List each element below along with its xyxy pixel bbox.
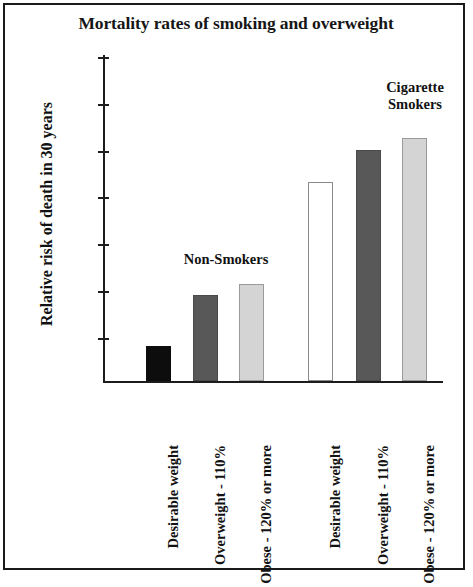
annotation-cigarette-smokers: Cigarette Smokers bbox=[355, 79, 473, 112]
bar-obese-smoker[interactable] bbox=[402, 138, 427, 381]
y-tick-mark bbox=[98, 244, 109, 246]
y-tick-mark bbox=[98, 151, 109, 153]
y-tick-mark bbox=[98, 104, 109, 106]
page-title: Mortality rates of smoking and overweigh… bbox=[5, 13, 467, 34]
bar-obese-nonsmoker[interactable] bbox=[239, 284, 264, 381]
annotation-non-smokers: Non-Smokers bbox=[151, 251, 301, 268]
bar-desirable-weight-smoker[interactable] bbox=[308, 182, 333, 381]
x-axis-line bbox=[103, 381, 443, 383]
y-tick-mark bbox=[98, 197, 109, 199]
x-category-label-1: Desirable weight bbox=[165, 445, 182, 587]
x-category-label-4: Desirable weight bbox=[327, 445, 344, 587]
y-tick-mark bbox=[98, 291, 109, 293]
bar-overweight-smoker[interactable] bbox=[356, 150, 381, 381]
x-category-label-2: Overweight - 110% bbox=[212, 445, 229, 587]
y-tick-mark bbox=[98, 57, 109, 59]
x-category-label-6: Obese - 120% or more bbox=[421, 445, 438, 587]
bar-overweight-nonsmoker[interactable] bbox=[193, 295, 218, 381]
x-category-label-3: Obese - 120% or more bbox=[258, 445, 275, 587]
y-axis-label: Relative risk of death in 30 years bbox=[38, 64, 56, 364]
plot-area: 14 12 10 8 6 4 2 bbox=[103, 55, 443, 383]
chart-frame: Mortality rates of smoking and overweigh… bbox=[3, 3, 465, 570]
y-tick-mark bbox=[98, 338, 109, 340]
x-category-label-5: Overweight - 110% bbox=[375, 445, 392, 587]
bar-desirable-weight-nonsmoker[interactable] bbox=[146, 346, 171, 381]
